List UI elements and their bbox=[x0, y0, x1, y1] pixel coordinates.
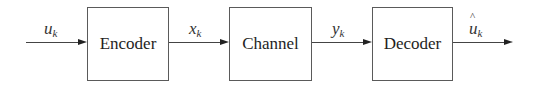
encoded-signal-sub: k bbox=[197, 27, 202, 39]
input-wire bbox=[26, 42, 78, 43]
channel-to-decoder-wire bbox=[312, 42, 363, 43]
block-diagram: uk Encoder xk Channel yk Decoder uk bbox=[0, 0, 534, 86]
encoded-signal-label: xk bbox=[189, 20, 201, 39]
channel-label: Channel bbox=[242, 34, 299, 54]
received-signal-sub: k bbox=[340, 27, 345, 39]
encoder-to-channel-arrowhead-icon bbox=[220, 39, 229, 45]
received-signal-base: y bbox=[332, 19, 340, 38]
input-signal-sub: k bbox=[53, 27, 58, 39]
encoder-block: Encoder bbox=[87, 7, 169, 81]
output-signal-base: u bbox=[469, 20, 478, 37]
output-signal-label: uk bbox=[469, 20, 482, 39]
output-wire bbox=[453, 42, 505, 43]
channel-block: Channel bbox=[229, 7, 312, 81]
channel-to-decoder-arrowhead-icon bbox=[363, 39, 372, 45]
input-arrowhead-icon bbox=[78, 39, 87, 45]
encoded-signal-base: x bbox=[189, 19, 197, 38]
encoder-to-channel-wire bbox=[169, 42, 220, 43]
decoder-label: Decoder bbox=[384, 34, 442, 54]
decoder-block: Decoder bbox=[372, 7, 453, 81]
input-signal-base: u bbox=[44, 19, 53, 38]
encoder-label: Encoder bbox=[100, 34, 157, 54]
received-signal-label: yk bbox=[332, 20, 344, 39]
input-signal-label: uk bbox=[44, 20, 57, 39]
output-signal-sub: k bbox=[478, 27, 483, 39]
output-arrowhead-icon bbox=[504, 39, 513, 45]
